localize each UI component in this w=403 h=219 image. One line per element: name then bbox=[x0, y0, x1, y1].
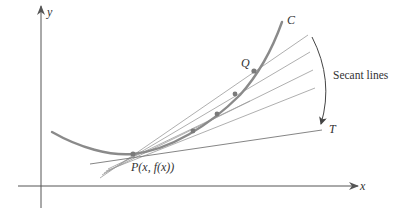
secant-line-4 bbox=[106, 88, 315, 171]
x-axis-label: x bbox=[359, 179, 366, 193]
secant-line-1 bbox=[100, 35, 308, 178]
point-q-label: Q bbox=[241, 56, 250, 70]
y-axis-label: y bbox=[46, 5, 53, 19]
secant-tangent-diagram: y x T C Q P(x, f(x)) Secant lines bbox=[0, 0, 403, 219]
tangent-label: T bbox=[329, 122, 337, 136]
secant-lines bbox=[100, 35, 315, 178]
point-q4 bbox=[191, 129, 196, 134]
point-p-label: P(x, f(x)) bbox=[130, 160, 174, 174]
rotation-arrow bbox=[312, 37, 326, 124]
point-p bbox=[130, 151, 135, 156]
point-q bbox=[251, 68, 256, 73]
secant-lines-label: Secant lines bbox=[333, 69, 389, 81]
tangent-line bbox=[90, 130, 322, 164]
secant-line-5 bbox=[108, 101, 250, 169]
point-q2 bbox=[233, 92, 238, 97]
curve-c bbox=[52, 22, 282, 154]
curve-points bbox=[130, 68, 256, 156]
point-q3 bbox=[215, 112, 220, 117]
curve-label: C bbox=[287, 13, 296, 27]
